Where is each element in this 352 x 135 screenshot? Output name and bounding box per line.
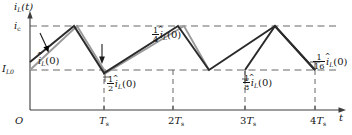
x-tick-label-ts2: 2Ts bbox=[168, 116, 184, 127]
annotation-amp16-denominator: 16 bbox=[313, 62, 325, 70]
annotation-amp0-symbol: i bbox=[38, 56, 41, 66]
annotation-amp2-denominator: 2 bbox=[107, 84, 114, 92]
annotation-amp4-argument: (0) bbox=[167, 29, 181, 40]
annotation-amp16-fraction: 1 16 bbox=[313, 53, 325, 70]
annotation-amp0-argument: (0) bbox=[45, 55, 59, 66]
annotation-amp4-symbol: i bbox=[160, 30, 163, 40]
annotation-amp2-symbol: i bbox=[115, 79, 118, 89]
annotation-amplitude-initial: iL(0) bbox=[38, 56, 59, 67]
x-tick-ts1-symbol: T bbox=[99, 115, 106, 126]
annotation-amp8-symbol: i bbox=[251, 78, 254, 88]
annotation-amplitude-sixteenth: 1 16 iL(0) bbox=[313, 53, 347, 70]
x-tick-label-ts3: 3Ts bbox=[240, 116, 256, 127]
annotation-amp4-denominator: 4 bbox=[152, 35, 159, 43]
annotation-amp16-symbol: i bbox=[326, 57, 329, 67]
pointer-arrow-amp0-line bbox=[40, 33, 47, 48]
y-tick-il0-subscript: L0 bbox=[6, 68, 14, 75]
x-tick-ts1-subscript: s bbox=[106, 120, 109, 127]
annotation-amp2-argument: (0) bbox=[122, 78, 136, 89]
annotation-amplitude-quarter: 1 4 iL(0) bbox=[152, 26, 181, 43]
y-axis-label-argument: (t) bbox=[21, 1, 33, 12]
annotation-amp8-argument: (0) bbox=[258, 77, 272, 88]
y-axis-label: iL(t) bbox=[14, 2, 33, 13]
y-tick-ic-subscript: c bbox=[17, 25, 20, 32]
x-tick-label-ts4: 4Ts bbox=[310, 116, 326, 127]
origin-label: O bbox=[15, 116, 23, 126]
annotation-amplitude-eighth: 1 8 iL(0) bbox=[243, 74, 272, 91]
trough-marker-ts1 bbox=[103, 72, 105, 74]
x-axis-label: t bbox=[339, 113, 343, 123]
waveform-primary-tail bbox=[245, 26, 315, 70]
y-tick-label-il0: IL0 bbox=[2, 64, 14, 75]
annotation-amp8-denominator: 8 bbox=[243, 83, 250, 91]
annotation-amp16-argument: (0) bbox=[333, 56, 347, 67]
x-tick-label-ts1: Ts bbox=[99, 116, 109, 127]
x-tick-ts2-subscript: s bbox=[181, 120, 184, 127]
inductor-current-waveform-figure: iL(t) ic IL0 O t Ts 2Ts 3Ts 4Ts iL(0) 1 … bbox=[0, 0, 352, 135]
x-tick-ts4-subscript: s bbox=[323, 120, 326, 127]
annotation-amplitude-half: 1 2 iL(0) bbox=[107, 75, 136, 92]
x-tick-ts3-subscript: s bbox=[253, 120, 256, 127]
y-tick-label-ic: ic bbox=[14, 21, 21, 32]
